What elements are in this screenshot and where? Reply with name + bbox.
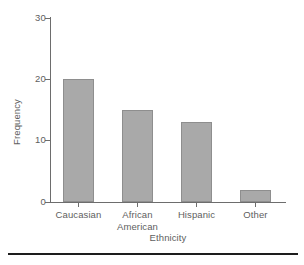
bar-caucasian[interactable]: [63, 79, 94, 202]
x-axis-label-african-american-line1: African: [107, 209, 168, 221]
x-axis-label-caucasian-line1: Caucasian: [48, 209, 109, 221]
bottom-divider-rule: [8, 253, 298, 255]
x-axis-tick-1: [78, 202, 79, 207]
bar-chart-figure: 30 20 10 0 Frequency Caucasian African A…: [0, 0, 304, 265]
y-axis-title: Frequency: [12, 72, 22, 172]
bar-other[interactable]: [240, 190, 271, 202]
x-axis-label-hispanic: Hispanic: [166, 209, 227, 221]
x-axis-label-hispanic-line1: Hispanic: [166, 209, 227, 221]
x-axis-title: Ethnicity: [50, 232, 286, 243]
x-axis-tick-3: [196, 202, 197, 207]
y-axis-tick-label-0: 0: [6, 197, 46, 207]
x-axis-label-african-american: African American: [107, 209, 168, 232]
x-axis-label-caucasian: Caucasian: [48, 209, 109, 221]
x-axis-label-other: Other: [225, 209, 286, 221]
bar-african-american[interactable]: [122, 110, 153, 202]
x-axis-tick-2: [137, 202, 138, 207]
x-axis-tick-4: [255, 202, 256, 207]
bar-hispanic[interactable]: [181, 122, 212, 202]
x-axis-label-other-line1: Other: [225, 209, 286, 221]
y-axis-tick-label-30: 30: [6, 13, 46, 23]
y-axis-line: [50, 17, 51, 203]
x-axis-line: [50, 202, 286, 203]
x-axis-label-african-american-line2: American: [107, 221, 168, 233]
